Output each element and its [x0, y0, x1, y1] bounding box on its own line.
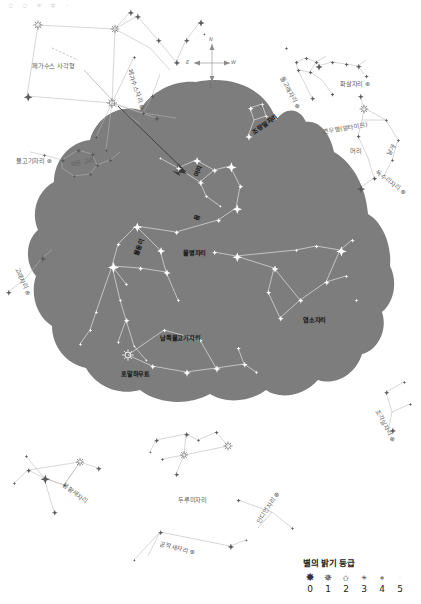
legend-symbol-mag-3: ✳ — [355, 574, 373, 582]
legend-symbol-mag-0: ✸ — [301, 571, 319, 584]
magnitude-legend: 별의 밝기 등급 ✸✵✩✳✲· 012345 — [301, 556, 413, 594]
legend-magnitude-3: 3 — [355, 584, 373, 594]
star-chart-figure: ✩✩✳✲· — [0, 0, 421, 604]
legend-magnitude-0: 0 — [301, 584, 319, 594]
legend-symbol-mag-1: ✵ — [319, 572, 337, 583]
compass-rose — [194, 44, 230, 82]
legend-magnitude-5: 5 — [391, 584, 409, 594]
square-leader-line — [84, 70, 112, 100]
legend-symbol-mag-4: ✲ — [373, 575, 391, 581]
legend-magnitude-1: 1 — [319, 584, 337, 594]
legend-magnitude-2: 2 — [337, 584, 355, 594]
sky-region-blob — [28, 80, 394, 402]
legend-number-row: 012345 — [301, 584, 413, 594]
legend-symbol-mag-2: ✩ — [337, 573, 355, 583]
square-leader-dashed — [52, 48, 78, 60]
legend-title: 별의 밝기 등급 — [303, 556, 413, 568]
legend-symbol-mag-5: · — [391, 575, 409, 580]
star-open — [33, 20, 119, 108]
legend-magnitude-4: 4 — [373, 584, 391, 594]
sky-map-canvas — [0, 0, 421, 604]
legend-symbol-row: ✸✵✩✳✲· — [301, 571, 413, 584]
